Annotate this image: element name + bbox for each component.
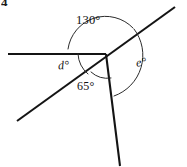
angle-label-d: d° (58, 59, 70, 72)
geometry-figure: 4 130° 65° d° e° (0, 0, 187, 167)
lower-right-ray (106, 54, 120, 166)
angle-label-65: 65° (77, 80, 94, 92)
angle-label-130: 130° (76, 14, 101, 27)
angle-label-e: e° (135, 55, 147, 68)
